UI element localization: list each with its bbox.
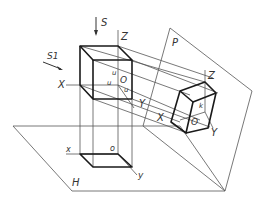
label-cube-z: Z: [120, 31, 129, 42]
label-plan-o: o: [110, 144, 115, 153]
label-proj-o: O: [191, 117, 198, 127]
arrow-s1: [43, 62, 63, 70]
arrow-s: [94, 17, 98, 36]
label-s: S: [101, 17, 108, 28]
label-proj-k: k: [199, 102, 204, 110]
label-s1: S1: [47, 51, 58, 61]
plane-h: [13, 126, 225, 191]
label-proj-x: X: [156, 112, 165, 123]
label-cube-u2: u: [112, 69, 117, 77]
label-cube-u1: u: [107, 79, 112, 87]
plan-view: [66, 154, 137, 175]
label-cube-u3: u: [124, 86, 129, 94]
label-cube-o: O: [120, 75, 127, 85]
label-p: P: [172, 37, 179, 48]
axonometric-diagram: S S1 P H Z X Y O u u u Z X Y O k x y o: [0, 0, 268, 203]
label-plan-y: y: [137, 170, 144, 180]
label-proj-y: Y: [211, 127, 218, 138]
label-cube-x: X: [57, 79, 66, 90]
plane-p: [143, 28, 252, 191]
label-h: H: [72, 177, 80, 188]
label-proj-z: Z: [207, 70, 216, 81]
label-plan-x: x: [65, 145, 71, 154]
label-cube-y: Y: [139, 98, 146, 109]
